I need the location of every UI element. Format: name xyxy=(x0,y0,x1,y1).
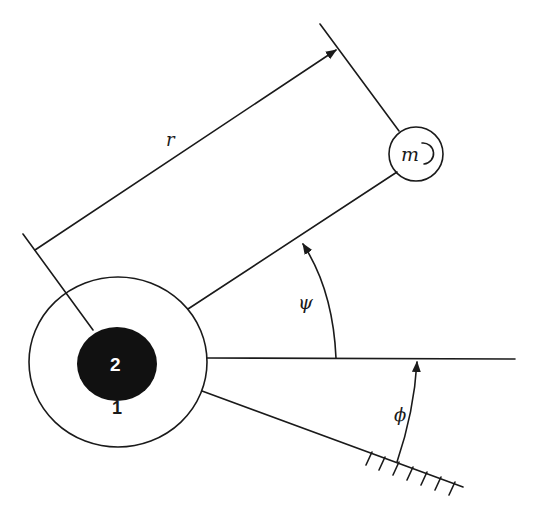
inner-body-2: 2 xyxy=(77,327,157,401)
extension-line-left xyxy=(23,234,93,330)
mass-m: m xyxy=(389,127,443,181)
angle-psi-label: ψ xyxy=(298,291,314,313)
ground-hatching xyxy=(366,452,455,495)
mass-label: m xyxy=(401,143,419,165)
reference-horizontal-line xyxy=(207,358,515,359)
inner-body-label: 2 xyxy=(110,354,121,375)
ground-line xyxy=(202,391,463,487)
dimension-line-r xyxy=(35,50,336,250)
rod xyxy=(188,172,397,309)
radius-label: r xyxy=(166,129,176,150)
angle-phi-label: ϕ xyxy=(394,404,406,425)
extension-line-right xyxy=(320,24,399,131)
kinematics-diagram: r m 1 2 ψ ϕ xyxy=(0,0,537,519)
rotation-arc-icon xyxy=(422,143,434,164)
